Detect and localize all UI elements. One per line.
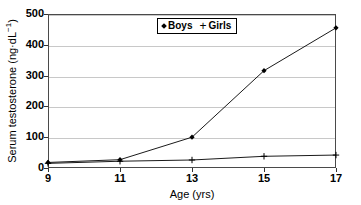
y-tick-label: 300: [16, 70, 44, 81]
gridline: [49, 138, 335, 139]
x-tick-mark: [192, 168, 193, 172]
legend-label: Boys: [168, 20, 192, 31]
plot-area: [48, 14, 336, 168]
legend-item-boys: Boys: [162, 20, 192, 31]
x-tick-label: 13: [177, 172, 207, 184]
gridline: [49, 107, 335, 108]
x-tick-label: 17: [321, 172, 351, 184]
legend-item-girls: +Girls: [199, 20, 231, 31]
chart-legend: Boys+Girls: [157, 18, 237, 34]
x-axis-ticks: 911131517: [48, 172, 336, 186]
y-tick-label: 400: [16, 39, 44, 50]
y-tick-label: 500: [16, 8, 44, 19]
diamond-marker-icon: [161, 23, 167, 29]
legend-label: Girls: [208, 20, 231, 31]
plus-marker-icon: +: [199, 21, 206, 31]
x-axis-title: Age (yrs): [48, 188, 336, 201]
y-tick-mark: [44, 45, 48, 46]
gridline: [49, 46, 335, 47]
y-tick-mark: [44, 14, 48, 15]
gridline: [49, 15, 335, 16]
x-tick-mark: [48, 168, 49, 172]
x-tick-label: 11: [105, 172, 135, 184]
x-tick-mark: [336, 168, 337, 172]
gridline: [49, 77, 335, 78]
x-tick-mark: [264, 168, 265, 172]
y-tick-mark: [44, 76, 48, 77]
y-tick-mark: [44, 106, 48, 107]
x-tick-label: 9: [33, 172, 63, 184]
x-tick-mark: [120, 168, 121, 172]
y-tick-label: 100: [16, 131, 44, 142]
chart-figure: Serum testosterone (ng·dL−1) 01002003004…: [0, 0, 361, 205]
x-tick-label: 15: [249, 172, 279, 184]
y-tick-label: 200: [16, 100, 44, 111]
y-axis-ticks: 0100200300400500: [12, 14, 44, 168]
y-tick-mark: [44, 137, 48, 138]
